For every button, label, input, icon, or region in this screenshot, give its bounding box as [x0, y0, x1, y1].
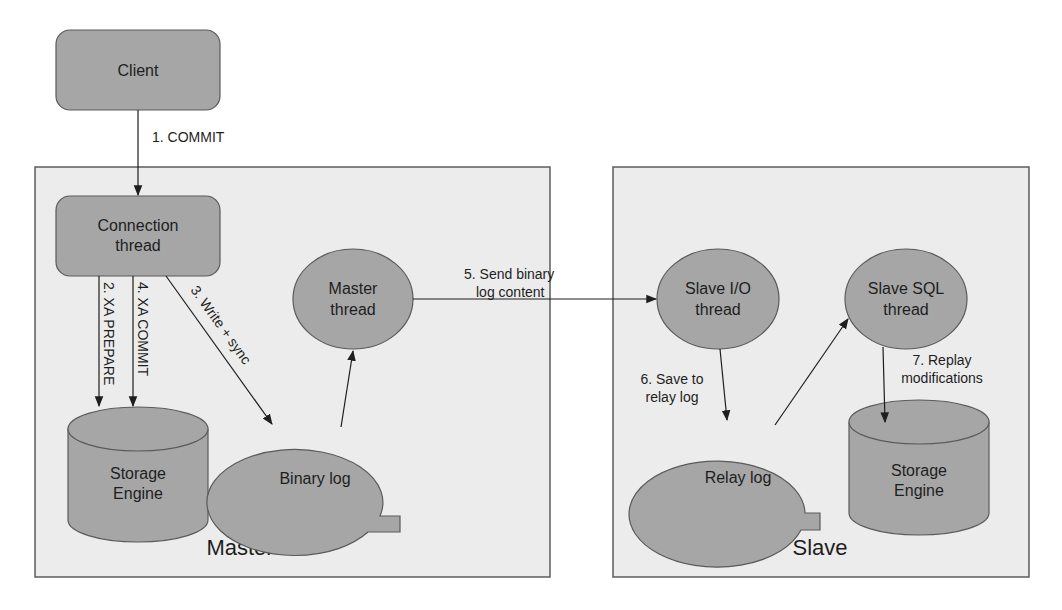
- replication-diagram: Master Slave Client Connection thread Ma…: [0, 0, 1062, 610]
- slave-storage-engine-node: Storage Engine: [849, 400, 989, 535]
- connection-thread-node: Connection thread: [56, 196, 220, 276]
- edge-save-relay-log-label-1: 6. Save to: [640, 371, 703, 387]
- slave-group-label: Slave: [792, 535, 847, 560]
- edge-xa-prepare-label: 2. XA PREPARE: [101, 282, 117, 385]
- binary-log-label: Binary log: [279, 470, 350, 487]
- edge-xa-commit-label: 4. XA COMMIT: [135, 282, 151, 377]
- client-node: Client: [56, 30, 220, 110]
- slave-storage-label-2: Engine: [894, 482, 944, 499]
- client-label: Client: [118, 62, 159, 79]
- slave-storage-label-1: Storage: [891, 462, 947, 479]
- edge-replay-label-1: 7. Replay: [912, 352, 971, 368]
- edge-send-binary-log-label-2: log content: [476, 284, 545, 300]
- slave-io-thread-node: Slave I/O thread: [657, 249, 779, 349]
- edge-save-relay-log-label-2: relay log: [646, 389, 699, 405]
- master-thread-node: Master thread: [293, 249, 413, 349]
- slave-sql-thread-label-2: thread: [883, 301, 928, 318]
- master-thread-label-2: thread: [330, 301, 375, 318]
- slave-sql-thread-node: Slave SQL thread: [845, 249, 967, 349]
- master-thread-label-1: Master: [329, 280, 379, 297]
- edge-send-binary-log-label-1: 5. Send binary: [464, 266, 554, 282]
- master-storage-engine-node: Storage Engine: [68, 407, 208, 542]
- edge-commit-label: 1. COMMIT: [152, 129, 225, 145]
- connection-thread-label-2: thread: [115, 237, 160, 254]
- slave-io-thread-label-1: Slave I/O: [685, 280, 751, 297]
- slave-sql-thread-label-1: Slave SQL: [868, 280, 945, 297]
- slave-io-thread-label-2: thread: [695, 301, 740, 318]
- connection-thread-label-1: Connection: [98, 217, 179, 234]
- relay-log-label: Relay log: [705, 469, 772, 486]
- master-storage-label-2: Engine: [113, 485, 163, 502]
- master-storage-label-1: Storage: [110, 465, 166, 482]
- edge-replay-label-2: modifications: [901, 370, 983, 386]
